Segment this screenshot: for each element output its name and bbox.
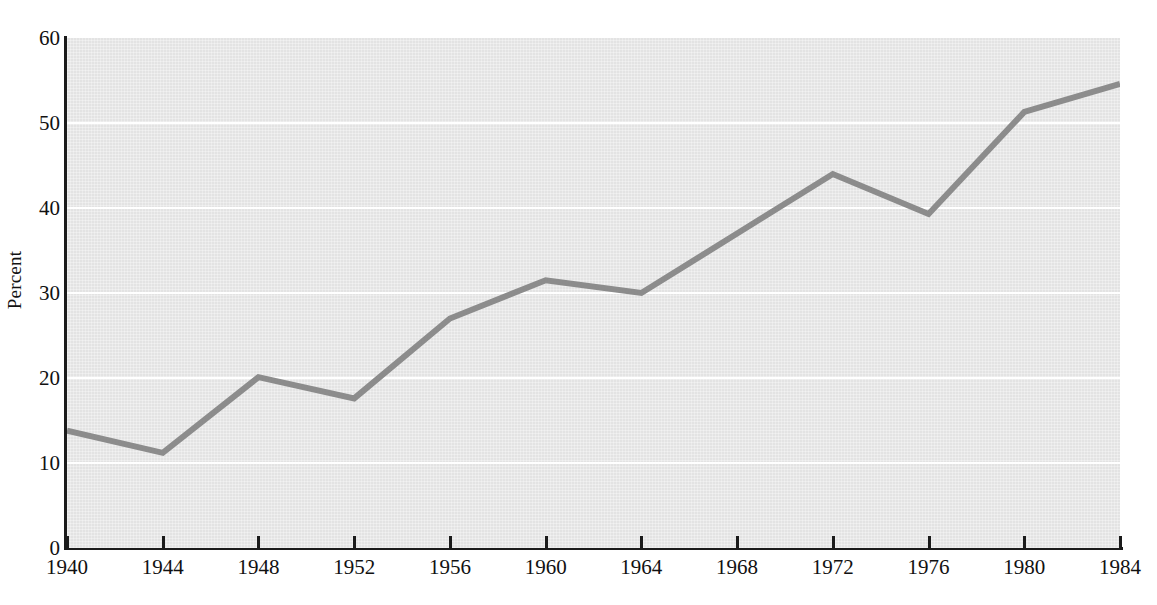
x-tick-label-1960: 1960 [501,556,591,579]
x-tick-label-1984: 1984 [1075,556,1157,579]
x-tick-label-1972: 1972 [788,556,878,579]
x-tick-label-1952: 1952 [309,556,399,579]
x-tick-mark-1960 [545,536,548,548]
x-tick-mark-1964 [640,536,643,548]
x-tick-mark-1972 [832,536,835,548]
x-tick-mark-1944 [162,536,165,548]
x-tick-label-1964: 1964 [596,556,686,579]
x-axis-tick-labels: 1940194419481952195619601964196819721976… [0,0,1157,605]
x-tick-label-1948: 1948 [213,556,303,579]
x-tick-label-1944: 1944 [118,556,208,579]
x-tick-mark-1984 [1119,536,1122,548]
x-tick-mark-1952 [353,536,356,548]
x-tick-mark-1976 [928,536,931,548]
line-chart-figure: Percent 0102030405060 194019441948195219… [0,0,1157,605]
x-tick-mark-1948 [257,536,260,548]
x-tick-label-1940: 1940 [22,556,112,579]
x-tick-mark-1940 [66,536,69,548]
x-tick-mark-1968 [736,536,739,548]
x-tick-label-1980: 1980 [979,556,1069,579]
x-tick-mark-1956 [449,536,452,548]
x-tick-label-1976: 1976 [884,556,974,579]
x-tick-mark-1980 [1023,536,1026,548]
x-tick-label-1968: 1968 [692,556,782,579]
x-tick-label-1956: 1956 [405,556,495,579]
